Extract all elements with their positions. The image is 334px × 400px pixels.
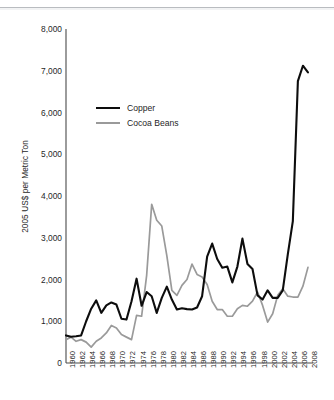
legend-label-cocoa-beans: Cocoa Beans bbox=[127, 118, 179, 128]
legend-item-cocoa-beans: Cocoa Beans bbox=[96, 115, 226, 130]
series-line-cocoa-beans bbox=[66, 204, 308, 347]
figure-container: 2005 US$ per Metric Ton 8,0007,0006,0005… bbox=[0, 0, 334, 400]
legend: Copper Cocoa Beans bbox=[96, 100, 226, 130]
plot-area bbox=[0, 0, 334, 400]
legend-swatch-cocoa-beans-icon bbox=[96, 122, 120, 124]
legend-swatch-copper-icon bbox=[96, 107, 120, 109]
legend-item-copper: Copper bbox=[96, 100, 226, 115]
legend-label-copper: Copper bbox=[127, 103, 155, 113]
